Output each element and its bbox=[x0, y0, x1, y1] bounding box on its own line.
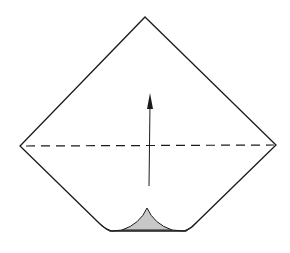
paper-outline bbox=[20, 17, 276, 231]
flap-edge-left bbox=[100, 224, 122, 231]
origami-diagram: valley fold fold up folded corner flap bbox=[0, 0, 290, 253]
fold-arrow-shaft bbox=[149, 104, 150, 186]
valley-fold-line bbox=[26, 145, 274, 146]
folded-flap bbox=[122, 208, 172, 230]
diagram-canvas bbox=[0, 0, 290, 253]
arrow-up-icon bbox=[147, 93, 153, 109]
